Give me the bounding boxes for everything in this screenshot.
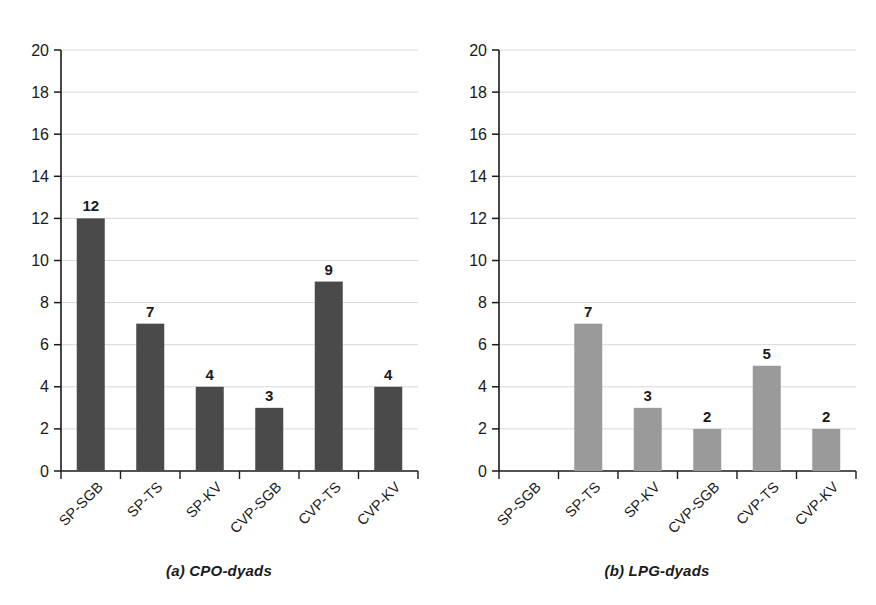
- x-tick-label: CVP-SGB: [227, 479, 284, 536]
- x-tick-label: SP-SGB: [494, 479, 544, 529]
- bar: [136, 324, 164, 471]
- y-tick-label: 18: [31, 84, 49, 101]
- y-tick-label: 14: [31, 168, 49, 185]
- y-tick-label: 2: [40, 420, 49, 437]
- y-tick-label: 6: [478, 336, 487, 353]
- bar: [574, 324, 602, 471]
- caption-chart-a: (a) CPO-dyads: [0, 562, 438, 579]
- bar: [315, 282, 343, 471]
- bar: [693, 429, 721, 471]
- y-tick-label: 20: [469, 42, 487, 59]
- y-tick-label: 14: [469, 168, 487, 185]
- x-tick-label: SP-TS: [124, 479, 166, 521]
- x-tick-label: SP-KV: [621, 479, 663, 521]
- y-tick-label: 12: [469, 210, 487, 227]
- x-tick-label: SP-SGB: [56, 479, 106, 529]
- y-tick-label: 20: [31, 42, 49, 59]
- y-tick-label: 8: [40, 294, 49, 311]
- bar-value-label: 9: [325, 261, 333, 278]
- y-tick-label: 0: [40, 463, 49, 480]
- bar: [812, 429, 840, 471]
- y-tick-label: 10: [469, 252, 487, 269]
- caption-chart-b: (b) LPG-dyads: [438, 562, 876, 579]
- y-tick-label: 4: [478, 378, 487, 395]
- x-tick-label: SP-TS: [562, 479, 604, 521]
- figure-two-bar-charts: 0246810121416182012SP-SGB7SP-TS4SP-KV3CV…: [0, 0, 876, 605]
- y-tick-label: 16: [31, 126, 49, 143]
- x-tick-label: CVP-SGB: [665, 479, 722, 536]
- x-tick-label: CVP-KV: [354, 479, 404, 529]
- y-tick-label: 18: [469, 84, 487, 101]
- chart-panel-b: 02468101214161820SP-SGB7SP-TS3SP-KV2CVP-…: [438, 0, 876, 605]
- bar-value-label: 3: [644, 387, 652, 404]
- bar-value-label: 4: [206, 366, 215, 383]
- bar-chart-a: 0246810121416182012SP-SGB7SP-TS4SP-KV3CV…: [0, 0, 438, 605]
- chart-panel-a: 0246810121416182012SP-SGB7SP-TS4SP-KV3CV…: [0, 0, 438, 605]
- bar: [753, 366, 781, 471]
- bar-value-label: 4: [384, 366, 393, 383]
- bar-value-label: 5: [763, 345, 771, 362]
- y-tick-label: 2: [478, 420, 487, 437]
- bar: [196, 387, 224, 471]
- x-tick-label: CVP-TS: [733, 479, 782, 528]
- x-tick-label: SP-KV: [183, 479, 225, 521]
- bar-value-label: 2: [703, 408, 711, 425]
- y-tick-label: 16: [469, 126, 487, 143]
- bar: [255, 408, 283, 471]
- y-tick-label: 10: [31, 252, 49, 269]
- y-tick-label: 0: [478, 463, 487, 480]
- bar: [634, 408, 662, 471]
- bar-value-label: 7: [584, 303, 592, 320]
- y-tick-label: 6: [40, 336, 49, 353]
- y-tick-label: 8: [478, 294, 487, 311]
- bar-chart-b: 02468101214161820SP-SGB7SP-TS3SP-KV2CVP-…: [438, 0, 876, 605]
- bar-value-label: 2: [822, 408, 830, 425]
- x-tick-label: CVP-KV: [792, 479, 842, 529]
- bar: [374, 387, 402, 471]
- x-tick-label: CVP-TS: [295, 479, 344, 528]
- bar: [77, 218, 105, 471]
- bar-value-label: 3: [265, 387, 273, 404]
- bar-value-label: 7: [146, 303, 154, 320]
- bar-value-label: 12: [82, 197, 99, 214]
- y-tick-label: 4: [40, 378, 49, 395]
- y-tick-label: 12: [31, 210, 49, 227]
